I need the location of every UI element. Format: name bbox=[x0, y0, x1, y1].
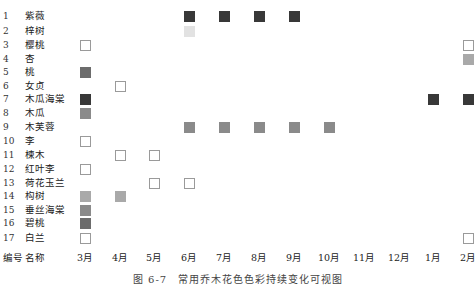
row-number: 3 bbox=[3, 39, 17, 51]
row-number: 8 bbox=[3, 107, 17, 119]
month-label: 5月 bbox=[137, 252, 171, 264]
color-square bbox=[463, 94, 474, 105]
color-square bbox=[184, 122, 195, 133]
color-square bbox=[219, 122, 230, 133]
month-label: 12月 bbox=[382, 252, 416, 264]
tree-name: 杏 bbox=[25, 53, 35, 65]
color-square bbox=[219, 11, 230, 22]
color-square bbox=[80, 40, 91, 51]
tree-name: 白兰 bbox=[25, 232, 45, 244]
color-square bbox=[115, 150, 126, 161]
row-number: 9 bbox=[3, 121, 17, 133]
color-square bbox=[463, 233, 474, 244]
month-label: 2月 bbox=[451, 252, 476, 264]
month-label: 10月 bbox=[312, 252, 346, 264]
color-square bbox=[184, 11, 195, 22]
month-label: 11月 bbox=[347, 252, 381, 264]
color-square bbox=[254, 122, 265, 133]
tree-name: 垂丝海棠 bbox=[25, 204, 65, 216]
month-label: 6月 bbox=[172, 252, 206, 264]
month-label: 4月 bbox=[103, 252, 137, 264]
color-square bbox=[80, 136, 91, 147]
color-square bbox=[324, 122, 335, 133]
tree-name: 木瓜 bbox=[25, 107, 45, 119]
color-square bbox=[254, 11, 265, 22]
row-number: 12 bbox=[3, 163, 17, 175]
row-number: 1 bbox=[3, 10, 17, 22]
row-number: 16 bbox=[3, 217, 17, 229]
color-square bbox=[80, 94, 91, 105]
row-number: 11 bbox=[3, 149, 17, 161]
tree-name: 红叶李 bbox=[25, 163, 55, 175]
row-number: 14 bbox=[3, 190, 17, 202]
figure-caption: 图 6-7 常用乔木花色色彩持续变化可视图 bbox=[0, 271, 476, 285]
tree-name: 李 bbox=[25, 135, 35, 147]
month-label: 8月 bbox=[242, 252, 276, 264]
row-number: 2 bbox=[3, 25, 17, 37]
color-square bbox=[80, 233, 91, 244]
tree-name: 荷花玉兰 bbox=[25, 177, 65, 189]
header-name-label: 名称 bbox=[25, 252, 45, 264]
tree-name: 紫薇 bbox=[25, 10, 45, 22]
color-square bbox=[80, 67, 91, 78]
tree-name: 樱桃 bbox=[25, 39, 45, 51]
tree-name: 女贞 bbox=[25, 80, 45, 92]
tree-name: 楝木 bbox=[25, 149, 45, 161]
header-number-label: 编号 bbox=[3, 252, 23, 264]
row-number: 17 bbox=[3, 232, 17, 244]
tree-name: 构树 bbox=[25, 190, 45, 202]
color-square bbox=[80, 164, 91, 175]
color-square bbox=[184, 26, 195, 37]
flower-color-chart: 编号 名称 图 6-7 常用乔木花色色彩持续变化可视图 3月4月5月6月7月8月… bbox=[0, 0, 476, 285]
color-square bbox=[80, 191, 91, 202]
color-square bbox=[149, 178, 160, 189]
tree-name: 桃 bbox=[25, 66, 35, 78]
color-square bbox=[80, 218, 91, 229]
tree-name: 木瓜海棠 bbox=[25, 93, 65, 105]
color-square bbox=[115, 81, 126, 92]
row-number: 7 bbox=[3, 93, 17, 105]
color-square bbox=[115, 191, 126, 202]
tree-name: 碧桃 bbox=[25, 217, 45, 229]
color-square bbox=[80, 108, 91, 119]
row-number: 5 bbox=[3, 66, 17, 78]
color-square bbox=[463, 54, 474, 65]
color-square bbox=[80, 205, 91, 216]
month-label: 9月 bbox=[277, 252, 311, 264]
month-label: 7月 bbox=[207, 252, 241, 264]
color-square bbox=[428, 94, 439, 105]
month-label: 1月 bbox=[416, 252, 450, 264]
tree-name: 梓树 bbox=[25, 25, 45, 37]
row-number: 13 bbox=[3, 177, 17, 189]
color-square bbox=[184, 178, 195, 189]
row-number: 10 bbox=[3, 135, 17, 147]
row-number: 6 bbox=[3, 80, 17, 92]
row-number: 4 bbox=[3, 53, 17, 65]
color-square bbox=[289, 122, 300, 133]
color-square bbox=[149, 150, 160, 161]
color-square bbox=[463, 40, 474, 51]
month-label: 3月 bbox=[68, 252, 102, 264]
color-square bbox=[289, 11, 300, 22]
tree-name: 木芙蓉 bbox=[25, 121, 55, 133]
row-number: 15 bbox=[3, 204, 17, 216]
